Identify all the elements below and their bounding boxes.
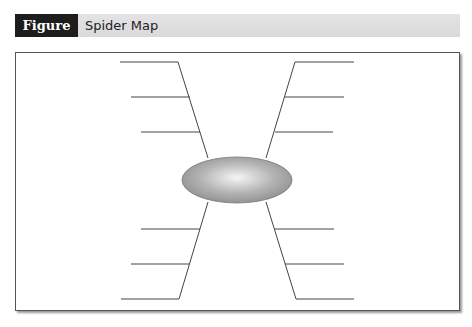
spider-map-diagram	[0, 0, 472, 327]
leg-upper-right	[266, 62, 295, 158]
leg-lower-right	[266, 202, 296, 299]
leg-lower-left	[179, 202, 208, 299]
central-topic-ellipse	[182, 157, 292, 203]
leg-upper-left	[178, 62, 208, 158]
